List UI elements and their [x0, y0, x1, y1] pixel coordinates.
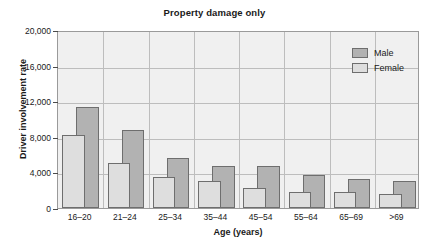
bar-female	[243, 188, 266, 208]
x-axis-tick-label: 21–24	[113, 212, 137, 222]
y-axis-tick-mark	[53, 209, 58, 210]
bar-female	[153, 177, 176, 208]
legend-item-female: Female	[352, 63, 404, 73]
x-axis-tick-label: 35–44	[204, 212, 228, 222]
legend-swatch-male-icon	[352, 48, 368, 58]
bar-female	[108, 163, 131, 208]
gridline-horizontal	[58, 103, 418, 104]
chart-figure: Property damage only Driver involvement …	[0, 0, 429, 251]
y-axis-tick-label: 12,000	[0, 97, 51, 107]
bar-female	[289, 192, 312, 208]
x-axis-title: Age (years)	[57, 227, 419, 237]
x-axis-tick-label: 16–20	[68, 212, 92, 222]
chart-legend: Male Female	[352, 48, 404, 73]
y-axis-tick-mark	[53, 173, 58, 174]
bar-female	[379, 194, 402, 208]
bar-female	[334, 192, 357, 208]
gridline-vertical	[194, 32, 195, 208]
x-axis-tick-label: 45–54	[249, 212, 273, 222]
y-axis-tick-label: 20,000	[0, 26, 51, 36]
x-axis-tick-label: 55–64	[294, 212, 318, 222]
y-axis-tick-mark	[53, 31, 58, 32]
bar-female	[198, 181, 221, 208]
legend-label-female: Female	[374, 63, 404, 73]
x-axis-tick-label: >69	[389, 212, 403, 222]
gridline-vertical	[103, 32, 104, 208]
y-axis-tick-mark	[53, 102, 58, 103]
legend-label-male: Male	[374, 48, 394, 58]
gridline-vertical	[239, 32, 240, 208]
gridline-vertical	[284, 32, 285, 208]
x-axis-tick-label: 25–34	[158, 212, 182, 222]
y-axis-tick-mark	[53, 67, 58, 68]
x-axis-tick-label: 65–69	[339, 212, 363, 222]
legend-item-male: Male	[352, 48, 404, 58]
gridline-vertical	[330, 32, 331, 208]
y-axis-tick-mark	[53, 138, 58, 139]
bar-female	[62, 135, 85, 208]
legend-swatch-female-icon	[352, 63, 368, 73]
plot-area: Male Female	[57, 31, 419, 209]
gridline-vertical	[149, 32, 150, 208]
y-axis-tick-label: 0	[0, 204, 51, 214]
y-axis-tick-label: 8,000	[0, 133, 51, 143]
gridline-horizontal	[58, 139, 418, 140]
y-axis-tick-label: 4,000	[0, 168, 51, 178]
chart-title: Property damage only	[0, 7, 429, 18]
y-axis-tick-label: 16,000	[0, 62, 51, 72]
